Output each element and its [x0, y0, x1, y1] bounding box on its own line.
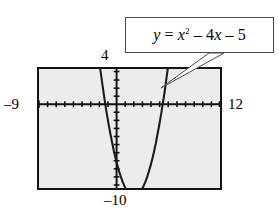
equation-term1-exponent: 2 [185, 26, 190, 36]
x-min-label: –9 [4, 97, 19, 112]
calculator-screen [37, 67, 222, 190]
equation-minus-1: – [194, 26, 202, 43]
x-max-label: 12 [228, 97, 243, 112]
equation-term2-coefficient: 4 [206, 26, 214, 43]
graphing-calculator-parabola-figure: 4 –9 12 –10 y=x2–4x–5 [0, 0, 279, 218]
equation-equals: = [164, 26, 173, 43]
equation-minus-2: – [225, 26, 233, 43]
equation-term1-variable: x [178, 26, 185, 43]
calculator-plot-svg [39, 69, 220, 188]
equation-callout-box: y=x2–4x–5 [125, 17, 274, 53]
equation-constant: 5 [238, 26, 246, 43]
equation-term2-variable: x [214, 26, 221, 43]
y-max-label: 4 [101, 48, 109, 63]
parabola-curve [100, 69, 168, 188]
equation-lhs: y [153, 26, 160, 43]
equation-callout-text: y=x2–4x–5 [153, 27, 246, 43]
y-min-label: –10 [104, 193, 127, 208]
